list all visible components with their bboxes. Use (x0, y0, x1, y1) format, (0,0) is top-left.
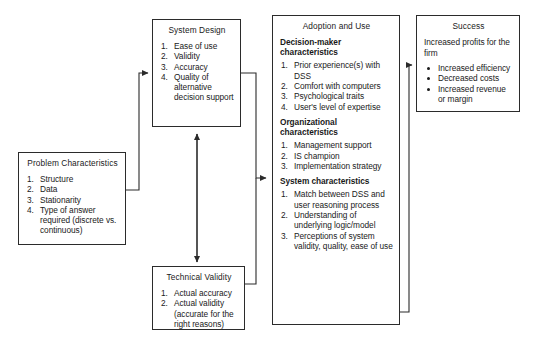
box-adoption-and-use: Adoption and Use Decision-maker characte… (272, 15, 400, 325)
list-item: Structure (26, 174, 119, 184)
box-problem-title: Problem Characteristics (26, 158, 119, 169)
list-item: Quality of alternative decision support (160, 72, 234, 103)
list-item: Data (26, 184, 119, 194)
box-system-design-title: System Design (160, 25, 234, 36)
decision-maker-item-list: Prior experience(s) with DSS Comfort wit… (280, 60, 393, 111)
list-item: Psychological traits (280, 91, 393, 101)
box-adoption-title: Adoption and Use (280, 21, 393, 32)
success-lead-text: Increased profits for the firm (424, 37, 513, 58)
connector-system-to-adoption (241, 73, 266, 178)
list-item: Ease of use (160, 41, 234, 51)
box-technical-validity: Technical Validity Actual accuracy Actua… (152, 266, 245, 330)
list-item: Decreased costs (424, 73, 513, 83)
list-item: Prior experience(s) with DSS (280, 60, 393, 81)
list-item: Validity (160, 51, 234, 61)
system-design-item-list: Ease of use Validity Accuracy Quality of… (160, 41, 234, 103)
problem-item-list: Structure Data Stationarity Type of answ… (26, 174, 119, 236)
subheading-system-characteristics: System characteristics (280, 176, 393, 186)
list-item: Actual accuracy (160, 288, 238, 298)
box-system-design: System Design Ease of use Validity Accur… (152, 19, 241, 127)
list-item: Management support (280, 140, 393, 150)
list-item: Increased efficiency (424, 63, 513, 73)
list-item: Stationarity (26, 195, 119, 205)
list-item: Accuracy (160, 62, 234, 72)
list-item: Match between DSS and user reasoning pro… (280, 189, 393, 210)
list-item: Understanding of underlying logic/model (280, 210, 393, 231)
list-item: Perceptions of system validity, quality,… (280, 231, 393, 252)
box-success-title: Success (424, 21, 513, 32)
connector-technical-to-adoption (245, 178, 256, 284)
connector-problem-to-system (126, 73, 148, 190)
diagram-canvas: Problem Characteristics Structure Data S… (0, 0, 535, 345)
list-item: Type of answer required (discrete vs. co… (26, 205, 119, 236)
list-item: Increased revenue or margin (424, 84, 513, 105)
box-success: Success Increased profits for the firm I… (416, 15, 520, 112)
system-characteristics-item-list: Match between DSS and user reasoning pro… (280, 189, 393, 251)
subheading-decision-maker: Decision-maker characteristics (280, 37, 393, 57)
organizational-item-list: Management support IS champion Implement… (280, 140, 393, 171)
list-item: Implementation strategy (280, 161, 393, 171)
box-technical-validity-title: Technical Validity (160, 272, 238, 283)
list-item: IS champion (280, 151, 393, 161)
technical-validity-item-list: Actual accuracy Actual validity (accurat… (160, 288, 238, 329)
list-item: User's level of expertise (280, 102, 393, 112)
list-item: Comfort with computers (280, 81, 393, 91)
success-bullet-list: Increased efficiency Decreased costs Inc… (424, 63, 513, 104)
list-item: Actual validity (accurate for the right … (160, 298, 238, 329)
box-problem-characteristics: Problem Characteristics Structure Data S… (18, 152, 126, 245)
subheading-organizational: Organizational characteristics (280, 117, 393, 137)
connector-adoption-to-success (400, 65, 412, 312)
